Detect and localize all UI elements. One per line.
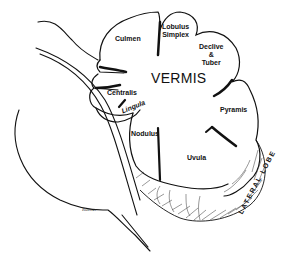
fissure-centralis bbox=[96, 85, 120, 88]
nodulus-outline bbox=[130, 113, 228, 189]
label-declive-tuber-line3: Tuber bbox=[199, 59, 224, 67]
fissure-primary bbox=[158, 22, 160, 55]
artist-signature: Rubner bbox=[82, 207, 97, 212]
label-nodulus: Nodulus bbox=[131, 130, 159, 138]
fissure-declive bbox=[214, 80, 232, 96]
vermis-title: VERMIS bbox=[151, 70, 206, 86]
label-declive-tuber-line2: & bbox=[199, 51, 224, 59]
fissure-pyramis bbox=[212, 127, 236, 146]
brainstem-inner bbox=[40, 54, 137, 215]
label-declive-tuber: Declive & Tuber bbox=[199, 43, 224, 67]
label-pyramis: Pyramis bbox=[220, 106, 247, 114]
fissure-culmen bbox=[100, 67, 126, 72]
label-centralis: Centralis bbox=[107, 89, 137, 97]
upper-contour bbox=[38, 21, 98, 60]
label-lobulus-simplex: Lobulus Simplex bbox=[162, 23, 189, 39]
label-culmen: Culmen bbox=[115, 35, 141, 43]
label-declive-tuber-line1: Declive bbox=[199, 43, 224, 51]
lower-line-2 bbox=[122, 215, 148, 247]
label-lobulus-simplex-line1: Lobulus bbox=[162, 23, 189, 31]
label-lobulus-simplex-line2: Simplex bbox=[162, 31, 189, 39]
fissure-uvula bbox=[206, 127, 212, 132]
label-uvula: Uvula bbox=[187, 154, 206, 162]
